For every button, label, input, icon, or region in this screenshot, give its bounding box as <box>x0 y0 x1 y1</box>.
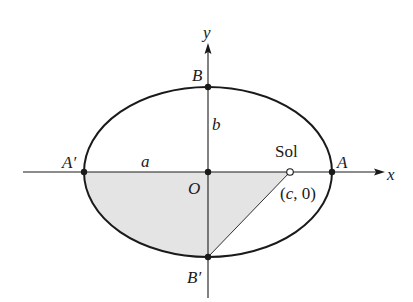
origin-label: O <box>188 179 200 198</box>
vertex-A-label: A <box>336 153 348 172</box>
semi-major-label: a <box>141 152 150 171</box>
vertex-A-prime-label: A′ <box>61 153 76 172</box>
vertex-B-prime-label: B′ <box>187 268 201 287</box>
point-A <box>329 169 335 175</box>
shaded-area-region <box>84 172 290 257</box>
point-B <box>205 84 211 90</box>
focus-coordinate-text: (c, 0) <box>280 184 316 203</box>
y-axis-label: y <box>201 23 211 42</box>
point-B-prime <box>205 254 211 260</box>
sun-focus-point <box>287 169 294 176</box>
point-origin <box>205 169 211 175</box>
vertex-B-label: B <box>192 66 203 85</box>
focus-coordinate-label: (c, 0) <box>280 184 316 203</box>
semi-minor-label: b <box>212 115 221 134</box>
point-A-prime <box>81 169 87 175</box>
sun-label: Sol <box>275 142 298 161</box>
x-axis-label: x <box>386 165 395 184</box>
ellipse-diagram: y x B B′ A A′ O b a Sol (c, 0) <box>0 0 413 302</box>
